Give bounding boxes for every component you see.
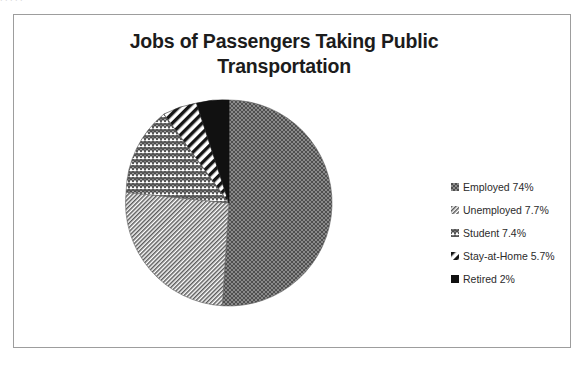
chart-legend: Employed 74% Unemployed 7.7% Student 7.4…: [451, 175, 581, 290]
legend-swatch-stay-at-home-icon: [451, 252, 459, 260]
legend-label-stay-at-home: Stay-at-Home 5.7%: [463, 250, 555, 262]
pie-chart-svg: [125, 99, 333, 307]
legend-item-retired: Retired 2%: [451, 267, 581, 290]
legend-item-stay-at-home: Stay-at-Home 5.7%: [451, 244, 581, 267]
chart-title-line-1: Jobs of Passengers Taking Public: [74, 29, 494, 54]
legend-label-retired: Retired 2%: [463, 273, 515, 285]
legend-swatch-student-icon: [451, 229, 459, 237]
chart-title: Jobs of Passengers Taking Public Transpo…: [74, 29, 494, 79]
scan-artifact-text: . . . . .: [0, 0, 23, 3]
legend-item-employed: Employed 74%: [451, 175, 581, 198]
pie-chart: [125, 99, 333, 307]
legend-label-student: Student 7.4%: [463, 227, 526, 239]
chart-title-line-2: Transportation: [74, 54, 494, 79]
scan-artifact-strip: . . . . .: [0, 0, 582, 13]
legend-swatch-retired-icon: [451, 275, 459, 283]
pie-slice-unemployed: [126, 192, 229, 306]
pie-slice-employed: [222, 100, 332, 306]
legend-item-student: Student 7.4%: [451, 221, 581, 244]
chart-frame: Jobs of Passengers Taking Public Transpo…: [13, 14, 571, 348]
legend-item-unemployed: Unemployed 7.7%: [451, 198, 581, 221]
legend-label-employed: Employed 74%: [463, 181, 534, 193]
legend-swatch-employed-icon: [451, 183, 459, 191]
legend-swatch-unemployed-icon: [451, 206, 459, 214]
legend-label-unemployed: Unemployed 7.7%: [463, 204, 549, 216]
